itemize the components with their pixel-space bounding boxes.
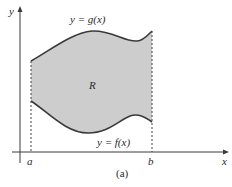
y-axis-arrow-icon [18,6,23,12]
top-curve-label: y = g(x) [69,13,106,26]
bottom-curve-label: y = f(x) [96,136,130,149]
x-axis-label: x [221,155,227,167]
region-diagram: y x a b R y = g(x) y = f(x) (a) [0,0,232,187]
figure-caption: (a) [116,167,129,180]
x-axis-arrow-icon [223,150,229,155]
region-label: R [88,79,96,91]
y-axis-label: y [8,5,14,17]
b-label: b [148,155,154,167]
a-label: a [27,155,33,167]
